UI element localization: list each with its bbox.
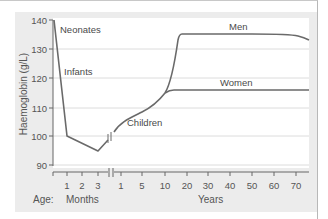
- y-tick-140: 140: [31, 15, 47, 26]
- x-axis-years-label: Years: [198, 194, 223, 205]
- x-tick-month-2: 2: [79, 180, 84, 191]
- chart-svg: 140 130 120 110 100 90 Haemoglobin (g/L)…: [0, 0, 328, 219]
- label-women: Women: [220, 77, 253, 88]
- x-tick-year-1: 1: [118, 180, 123, 191]
- x-tick-year-10: 10: [160, 180, 171, 191]
- y-tick-120: 120: [31, 73, 47, 84]
- x-tick-year-5: 5: [139, 180, 144, 191]
- x-tick-year-70: 70: [291, 180, 302, 191]
- y-tick-110: 110: [32, 103, 47, 114]
- y-tick-90: 90: [36, 160, 47, 171]
- y-axis-title: Haemoglobin (g/L): [18, 53, 29, 135]
- x-axis-break: [109, 168, 113, 177]
- x-axis-months-label: Months: [66, 194, 99, 205]
- x-tick-year-40: 40: [225, 180, 236, 191]
- y-tick-130: 130: [31, 44, 47, 55]
- plot-area: [53, 18, 309, 168]
- x-tick-month-1: 1: [64, 180, 69, 191]
- y-ticks: [49, 20, 53, 165]
- x-ticks: [53, 172, 296, 176]
- y-tick-labels: 140 130 120 110 100 90: [31, 15, 47, 171]
- x-tick-year-30: 30: [203, 180, 214, 191]
- x-tick-month-3: 3: [95, 180, 100, 191]
- x-tick-year-50: 50: [247, 180, 258, 191]
- x-tick-year-20: 20: [182, 180, 193, 191]
- y-tick-100: 100: [31, 131, 47, 142]
- label-neonates: Neonates: [60, 24, 101, 35]
- label-men: Men: [229, 21, 247, 32]
- x-tick-labels: 1 2 3 1 5 10 20 30 40 50 60 70: [64, 180, 301, 191]
- x-axis-age-label: Age:: [33, 194, 54, 205]
- x-tick-year-60: 60: [269, 180, 280, 191]
- label-infants: Infants: [64, 66, 93, 77]
- label-children: Children: [127, 117, 162, 128]
